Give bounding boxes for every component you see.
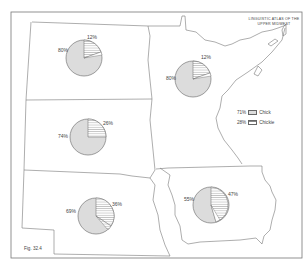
lake-superior-shore bbox=[216, 28, 285, 164]
legend-chickie: 28% Chickie bbox=[237, 120, 274, 125]
map-title: LINGUISTIC ATLAS OF THE UPPER MIDWEST bbox=[247, 17, 301, 28]
upper-midwest-map bbox=[0, 0, 306, 270]
nd-chick-label: 80% bbox=[58, 48, 68, 53]
nd-chickie-label: 12% bbox=[87, 35, 97, 40]
hatched-swatch-icon bbox=[248, 120, 257, 125]
legend-chickie-percent: 28% bbox=[237, 120, 246, 125]
pie-north-dakota bbox=[66, 40, 102, 76]
legend-chick-percent: 71% bbox=[237, 110, 246, 115]
legend-chick: 71% Chick bbox=[237, 110, 271, 115]
ne-chickie-label: 36% bbox=[112, 202, 122, 207]
wi-shore bbox=[254, 66, 262, 76]
pie-minnesota bbox=[175, 61, 211, 97]
sd-chickie-label: 26% bbox=[103, 121, 113, 126]
ia-chick-label: 55% bbox=[184, 197, 194, 202]
pie-nebraska bbox=[78, 198, 114, 234]
mn-south-boundary bbox=[156, 166, 262, 169]
figure-label: Fig. 32.4 bbox=[24, 246, 42, 251]
mn-chickie-label: 12% bbox=[201, 55, 211, 60]
legend-chickie-label: Chickie bbox=[259, 120, 274, 125]
map-frame bbox=[11, 12, 302, 258]
ia-chickie-label: 47% bbox=[228, 192, 238, 197]
ne-chick-label: 69% bbox=[66, 209, 76, 214]
title-line-2: UPPER MIDWEST bbox=[247, 22, 301, 27]
pie-south-dakota bbox=[70, 119, 106, 155]
legend-chick-label: Chick bbox=[259, 110, 271, 115]
isle-royale bbox=[268, 39, 278, 46]
sd-chick-label: 74% bbox=[58, 134, 68, 139]
pie-iowa bbox=[193, 187, 229, 223]
solid-swatch-icon bbox=[248, 110, 257, 115]
mn-chick-label: 80% bbox=[166, 76, 176, 81]
